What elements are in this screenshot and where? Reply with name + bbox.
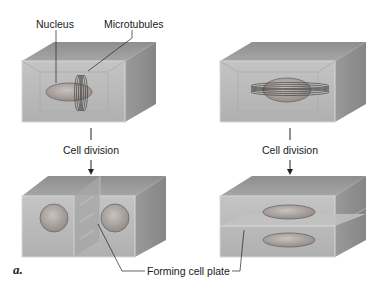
figure: Nucleus Microtubules Cell division Cell …	[0, 0, 387, 298]
cell-bottom-right	[220, 176, 366, 257]
daughter-nucleus-left	[40, 204, 68, 232]
cell-top-right	[220, 42, 366, 122]
forming-cell-plate-label: Forming cell plate	[147, 266, 230, 277]
daughter-nucleus-top	[263, 205, 315, 219]
cell-top-left	[22, 42, 156, 122]
nucleus-label: Nucleus	[36, 19, 74, 30]
cell-bottom-left	[22, 176, 166, 257]
panel-letter: a.	[13, 262, 23, 278]
daughter-nucleus-right	[101, 204, 129, 232]
nucleus	[263, 78, 311, 102]
microtubules-label: Microtubules	[104, 19, 164, 30]
cell-division-diagram	[0, 0, 387, 298]
cell-division-label-right: Cell division	[262, 145, 318, 156]
daughter-nucleus-bottom	[263, 233, 315, 247]
cell-division-label-left: Cell division	[63, 145, 119, 156]
